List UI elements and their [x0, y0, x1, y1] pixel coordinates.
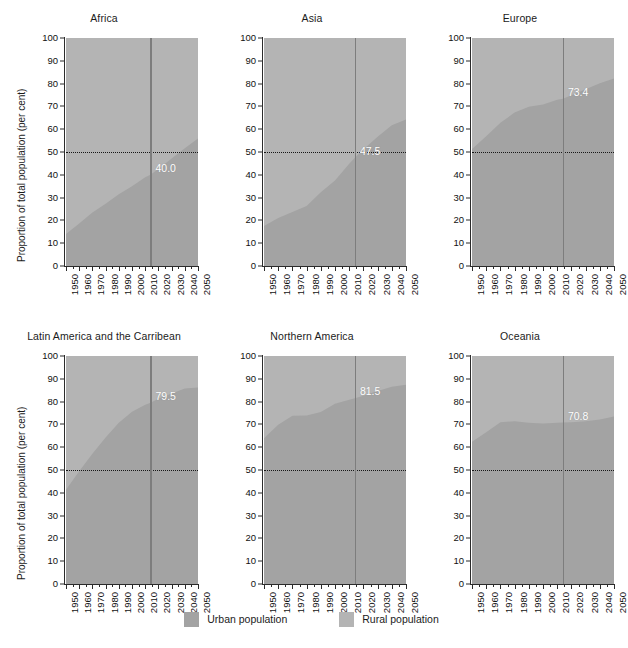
- x-tick-mark: [356, 584, 357, 587]
- legend-item-rural[interactable]: Rural population: [339, 612, 438, 627]
- chart-legend: Urban population Rural population: [0, 608, 623, 630]
- y-tick-label: 100: [448, 351, 464, 361]
- y-tick-mark: [466, 38, 470, 39]
- y-tick-mark: [258, 38, 262, 39]
- x-tick-mark: [500, 584, 501, 589]
- x-tick-mark: [406, 266, 407, 271]
- x-axis-labels: 1950196019701980199020002010202020302040…: [472, 274, 614, 310]
- x-tick-mark: [543, 584, 544, 589]
- x-tick-mark: [66, 266, 67, 271]
- x-tick-mark: [125, 266, 126, 269]
- x-tick-label: 1950: [268, 274, 278, 295]
- reference-year-line: [150, 356, 151, 584]
- x-tick-mark: [493, 266, 494, 269]
- x-tick-mark: [564, 266, 565, 269]
- legend-item-urban[interactable]: Urban population: [184, 612, 287, 627]
- x-tick-mark: [172, 266, 173, 271]
- x-tick-mark: [536, 266, 537, 269]
- x-tick-mark: [152, 266, 153, 269]
- y-tick-label: 30: [47, 511, 58, 521]
- y-tick-mark: [60, 197, 64, 198]
- x-tick-mark: [479, 266, 480, 269]
- y-tick-label: 50: [47, 465, 58, 475]
- y-axis-line: [470, 37, 471, 267]
- y-tick-label: 100: [240, 351, 256, 361]
- y-tick-mark: [60, 129, 64, 130]
- x-tick-mark: [99, 266, 100, 269]
- y-tick-mark: [60, 492, 64, 493]
- y-tick-label: 60: [453, 442, 464, 452]
- y-axis-line: [262, 37, 263, 267]
- figure-caption: [4, 636, 304, 646]
- y-tick-mark: [466, 561, 470, 562]
- y-tick-label: 40: [245, 488, 256, 498]
- x-tick-label: 2030: [382, 274, 392, 295]
- x-tick-label: 2030: [176, 274, 186, 295]
- y-axis-ticks: 0102030405060708090100: [242, 38, 262, 266]
- x-tick-label: 1990: [325, 274, 335, 295]
- y-tick-mark: [258, 83, 262, 84]
- x-tick-mark: [191, 584, 192, 587]
- y-tick-mark: [258, 378, 262, 379]
- x-tick-mark: [92, 266, 93, 271]
- x-tick-label: 2030: [590, 274, 600, 295]
- y-tick-mark: [258, 106, 262, 107]
- value-label: 40.0: [155, 162, 175, 174]
- x-tick-mark: [550, 584, 551, 587]
- x-tick-mark: [500, 266, 501, 271]
- x-tick-mark: [515, 266, 516, 271]
- y-tick-label: 20: [453, 216, 464, 226]
- x-tick-mark: [139, 266, 140, 269]
- x-tick-mark: [152, 584, 153, 587]
- y-tick-mark: [466, 378, 470, 379]
- y-tick-label: 0: [251, 261, 256, 271]
- y-tick-mark: [60, 60, 64, 61]
- x-tick-mark: [600, 584, 601, 589]
- x-tick-mark: [349, 266, 350, 271]
- x-tick-mark: [292, 584, 293, 589]
- x-tick-mark: [392, 584, 393, 589]
- x-tick-mark: [178, 584, 179, 587]
- x-axis-labels: 1950196019701980199020002010202020302040…: [66, 274, 198, 310]
- x-tick-label: 2010: [561, 274, 571, 295]
- x-tick-label: 1980: [519, 274, 529, 295]
- y-tick-label: 10: [453, 238, 464, 248]
- x-tick-mark: [586, 584, 587, 589]
- x-tick-mark: [614, 266, 615, 271]
- x-tick-mark: [132, 584, 133, 589]
- y-tick-label: 30: [453, 511, 464, 521]
- y-tick-mark: [466, 174, 470, 175]
- x-tick-label: 1980: [311, 274, 321, 295]
- x-tick-mark: [271, 266, 272, 269]
- panel-europe: Europe 73.4 0102030405060708090100 19501…: [420, 4, 620, 304]
- x-tick-mark: [165, 584, 166, 587]
- x-tick-mark: [529, 584, 530, 589]
- y-tick-mark: [258, 492, 262, 493]
- y-tick-label: 40: [453, 170, 464, 180]
- x-tick-mark: [529, 266, 530, 271]
- x-tick-label: 1970: [96, 274, 106, 295]
- value-label: 47.5: [360, 145, 380, 157]
- y-tick-mark: [466, 584, 470, 585]
- x-tick-label: 2010: [149, 274, 159, 295]
- x-tick-mark: [158, 584, 159, 589]
- urban-swatch: [184, 612, 199, 627]
- y-tick-label: 40: [453, 488, 464, 498]
- y-tick-label: 10: [47, 556, 58, 566]
- y-axis-ticks: 0102030405060708090100: [44, 38, 64, 266]
- y-tick-mark: [60, 584, 64, 585]
- x-tick-label: 1950: [476, 274, 486, 295]
- fifty-percent-line: [472, 470, 614, 471]
- y-tick-mark: [60, 356, 64, 357]
- x-tick-mark: [271, 584, 272, 587]
- x-tick-mark: [285, 584, 286, 587]
- x-tick-mark: [321, 584, 322, 589]
- y-tick-label: 80: [453, 397, 464, 407]
- y-tick-label: 20: [47, 216, 58, 226]
- x-tick-label: 2000: [136, 274, 146, 295]
- x-tick-mark: [378, 584, 379, 589]
- y-tick-label: 100: [42, 351, 58, 361]
- panel-title: Oceania: [420, 330, 620, 342]
- y-tick-label: 20: [245, 534, 256, 544]
- y-tick-mark: [258, 470, 262, 471]
